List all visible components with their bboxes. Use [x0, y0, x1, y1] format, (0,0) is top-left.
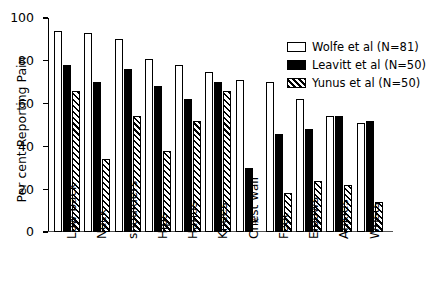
- bar-group: [205, 18, 231, 232]
- x-axis-label: Hands: [186, 201, 200, 239]
- bar: [145, 59, 153, 232]
- x-axis-label: Chest wall: [247, 177, 261, 239]
- x-axis-label: Wrists: [368, 202, 382, 239]
- x-axis-label: Ankles: [337, 199, 351, 239]
- legend-item-leavitt: Leavitt et al (N=50): [287, 56, 423, 73]
- y-tick-label: 100: [10, 10, 34, 25]
- bar: [266, 82, 274, 232]
- x-axis-label: Low back: [65, 183, 79, 239]
- bar: [154, 86, 162, 232]
- x-axis-label: Hips: [156, 213, 170, 239]
- bar: [357, 123, 365, 232]
- y-tick-label: 20: [18, 181, 34, 196]
- legend-label: Leavitt et al (N=50): [312, 58, 426, 72]
- bar: [84, 33, 92, 232]
- legend-swatch-open-icon: [287, 42, 306, 52]
- bar: [54, 31, 62, 232]
- bar-group: [145, 18, 171, 232]
- legend-swatch-hatched-icon: [287, 78, 306, 88]
- legend: Wolfe et al (N=81) Leavitt et al (N=50) …: [287, 38, 423, 92]
- x-axis-label: Neck: [95, 209, 109, 239]
- x-axis-label: Elbows: [307, 197, 321, 239]
- bar: [205, 72, 213, 233]
- legend-swatch-solid-icon: [287, 60, 306, 70]
- x-axis-label: Knees: [216, 203, 230, 240]
- x-axis-label: shoulders: [126, 181, 140, 239]
- bar: [175, 65, 183, 232]
- bar-group: [84, 18, 110, 232]
- y-tick-label: 60: [18, 96, 34, 111]
- y-tick-label: 0: [26, 224, 34, 239]
- legend-item-yunus: Yunus et al (N=50): [287, 74, 423, 91]
- bar: [326, 116, 334, 232]
- legend-item-wolfe: Wolfe et al (N=81): [287, 38, 423, 55]
- bar: [296, 99, 304, 232]
- y-tick-label: 40: [18, 138, 34, 153]
- x-axis-label: Feet: [277, 213, 291, 239]
- legend-label: Yunus et al (N=50): [312, 76, 420, 90]
- bar-group: [175, 18, 201, 232]
- bar: [236, 80, 244, 232]
- y-tick-label: 80: [18, 53, 34, 68]
- legend-label: Wolfe et al (N=81): [312, 40, 419, 54]
- bar: [115, 39, 123, 232]
